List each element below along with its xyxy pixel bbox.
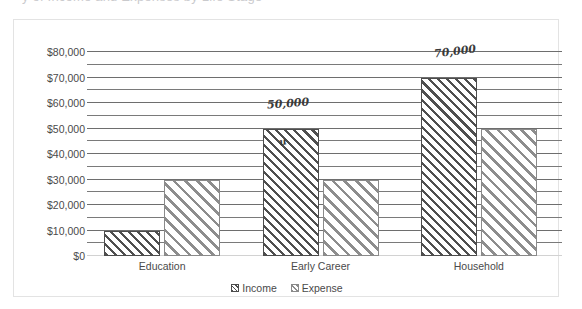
x-axis-labels: EducationEarly CareerHousehold	[87, 260, 562, 278]
y-axis-tick-label: $10,000	[27, 225, 85, 237]
plot-area	[87, 52, 562, 256]
y-axis-tick-label: $20,000	[27, 199, 85, 211]
chart-frame: $0$10,000$20,000$30,000$40,000$50,000$60…	[13, 19, 559, 297]
x-axis-label-education: Education	[139, 260, 186, 272]
y-axis-tick-label: $80,000	[27, 46, 85, 58]
y-axis-tick-label: $60,000	[27, 97, 85, 109]
x-axis-label-household: Household	[454, 260, 504, 272]
chart-legend: IncomeExpense	[14, 282, 560, 294]
y-axis-tick-label: $50,000	[27, 123, 85, 135]
bar-income-early-career[interactable]	[263, 129, 319, 257]
legend-item-income[interactable]: Income	[231, 282, 276, 294]
bar-income-household[interactable]	[421, 78, 477, 257]
scanned-page-text-fragment-label: y of Income and Expenses by Life Stage	[22, 0, 262, 4]
legend-label: Income	[242, 282, 276, 294]
bar-expense-education[interactable]	[164, 180, 220, 257]
y-axis-labels: $0$10,000$20,000$30,000$40,000$50,000$60…	[27, 52, 85, 256]
legend-label: Expense	[302, 282, 343, 294]
scanned-page-text-fragment: y of Income and Expenses by Life Stage	[0, 0, 582, 12]
y-axis-tick-label: $70,000	[27, 72, 85, 84]
y-axis-tick-label: $40,000	[27, 148, 85, 160]
bars-layer	[87, 52, 562, 256]
bar-income-education[interactable]	[104, 231, 160, 257]
bar-expense-early-career[interactable]	[323, 180, 379, 257]
y-axis-tick-label: $0	[27, 250, 85, 262]
legend-swatch-expense-icon	[291, 284, 299, 292]
bar-expense-household[interactable]	[481, 129, 537, 257]
legend-item-expense[interactable]: Expense	[291, 282, 343, 294]
legend-swatch-income-icon	[231, 284, 239, 292]
x-axis-label-early-career: Early Career	[291, 260, 350, 272]
y-axis-tick-label: $30,000	[27, 174, 85, 186]
